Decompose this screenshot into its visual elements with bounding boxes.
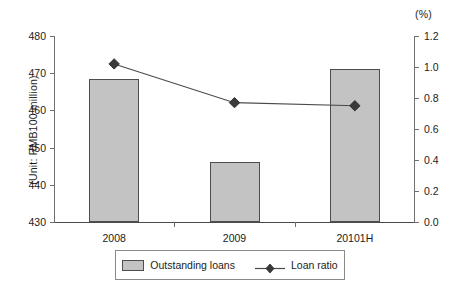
legend-bar-swatch-icon	[122, 260, 144, 271]
legend-line-diamond-icon	[255, 260, 285, 271]
category-label-20101H: 20101H	[336, 232, 373, 244]
line-series	[54, 36, 415, 222]
right-tick-label: 0.6	[424, 124, 439, 135]
left-tick-label: 450	[28, 142, 46, 153]
legend-item-loan-ratio: Loan ratio	[255, 259, 338, 271]
legend-item-outstanding-loans: Outstanding loans	[122, 259, 235, 271]
right-axis-unit-label: (%)	[415, 8, 432, 20]
loan-ratio-marker-2008	[109, 59, 119, 69]
loan-chart: (%) (Unit: RMB100 million) 4804704604504…	[0, 0, 456, 290]
left-tick-label: 430	[28, 217, 46, 228]
right-tick-label: 0.8	[424, 93, 439, 104]
left-tick-label: 460	[28, 105, 46, 116]
right-tick-label: 0.0	[424, 217, 439, 228]
loan-ratio-marker-2009	[229, 97, 239, 107]
left-tick-label: 480	[28, 31, 46, 42]
right-tick-label: 1.2	[424, 31, 439, 42]
right-tick-label: 1.0	[424, 62, 439, 73]
category-label-2008: 2008	[102, 232, 125, 244]
x-axis-line	[54, 222, 415, 223]
left-tick-label: 470	[28, 68, 46, 79]
category-label-2009: 2009	[223, 232, 246, 244]
loan-ratio-marker-20101H	[350, 101, 360, 111]
left-tick	[50, 222, 55, 223]
chart-legend: Outstanding loans Loan ratio	[115, 250, 345, 280]
legend-label-outstanding-loans: Outstanding loans	[150, 259, 235, 271]
plot-area: 480470460450440430 1.21.00.80.60.40.20.0…	[54, 36, 415, 222]
left-tick-label: 440	[28, 180, 46, 191]
legend-label-loan-ratio: Loan ratio	[291, 259, 338, 271]
right-tick-label: 0.2	[424, 186, 439, 197]
right-tick	[414, 222, 419, 223]
category-tick	[174, 222, 175, 227]
right-tick-label: 0.4	[424, 155, 439, 166]
category-tick	[295, 222, 296, 227]
